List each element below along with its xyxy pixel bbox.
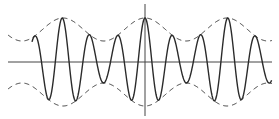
lower-envelope-dashed bbox=[8, 83, 272, 106]
modulated-wave bbox=[32, 18, 272, 101]
beat-wave-diagram bbox=[0, 0, 279, 119]
